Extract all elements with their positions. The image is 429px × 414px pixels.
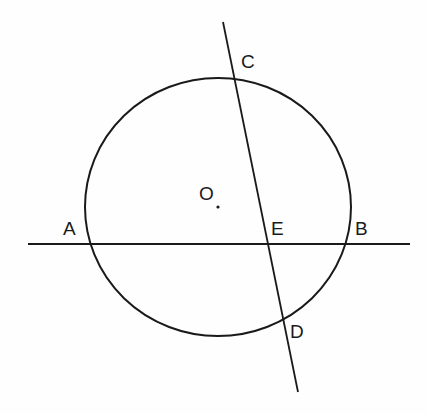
label-O: O (199, 184, 214, 203)
label-A: A (63, 219, 76, 238)
center-point-O (216, 205, 219, 208)
diagram-svg (0, 0, 429, 414)
line-CD (223, 22, 298, 392)
label-D: D (290, 322, 304, 341)
geometry-diagram: C O A E B D (0, 0, 429, 414)
label-C: C (241, 52, 255, 71)
label-B: B (355, 219, 368, 238)
label-E: E (271, 219, 284, 238)
